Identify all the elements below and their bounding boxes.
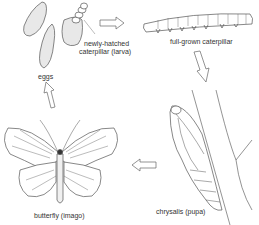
- arrow-caterpillar-to-pupa: [194, 51, 209, 82]
- arrow-pupa-to-imago: [132, 159, 156, 171]
- life-cycle-diagram: [0, 0, 259, 225]
- arrow-larva-to-caterpillar: [100, 17, 124, 29]
- larva-label-line1: newly-hatched: [84, 40, 129, 48]
- arrow-imago-to-eggs: [44, 82, 55, 108]
- eggs-label: eggs: [38, 73, 53, 81]
- imago-label: butterfly (imago): [34, 212, 85, 220]
- egg-1: [24, 2, 47, 36]
- chrysalis: [170, 106, 222, 210]
- butterfly: [4, 120, 117, 203]
- caterpillar-label: full-grown caterpillar: [170, 38, 233, 46]
- pupa-label: chrysalis (pupa): [156, 208, 205, 216]
- full-grown-caterpillar: [143, 14, 252, 33]
- egg-2: [40, 24, 55, 68]
- larva-label-line2: caterpillar (larva): [79, 48, 131, 56]
